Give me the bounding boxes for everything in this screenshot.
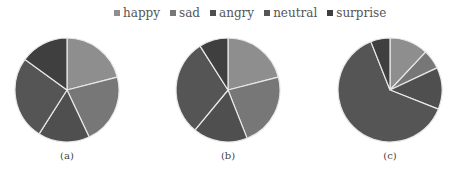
legend-label: sad [179, 5, 200, 21]
legend-swatch-angry [210, 10, 216, 16]
legend-item-neutral: neutral [264, 5, 317, 21]
caption-a: (a) [47, 150, 87, 161]
legend-item-happy: happy [114, 5, 160, 21]
legend-item-angry: angry [210, 5, 254, 21]
pie-chart-a [13, 36, 121, 144]
legend-swatch-neutral [264, 10, 270, 16]
legend-label: happy [123, 5, 160, 21]
pie-chart-c [336, 36, 444, 144]
legend-label: neutral [273, 5, 317, 21]
legend-swatch-surprise [327, 10, 333, 16]
pie-chart-b [174, 36, 282, 144]
legend-label: surprise [336, 5, 386, 21]
legend-item-sad: sad [170, 5, 200, 21]
caption-c: (c) [370, 150, 410, 161]
legend-item-surprise: surprise [327, 5, 386, 21]
legend-swatch-sad [170, 10, 176, 16]
caption-b: (b) [208, 150, 248, 161]
chart-legend: happy sad angry neutral surprise [114, 5, 386, 21]
legend-swatch-happy [114, 10, 120, 16]
legend-label: angry [219, 5, 254, 21]
